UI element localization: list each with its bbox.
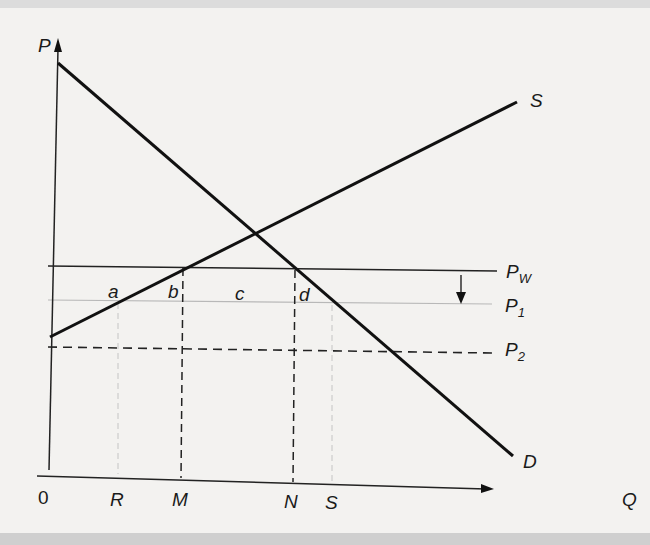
m-guide-line (181, 268, 183, 478)
area-d-label: d (299, 285, 310, 304)
p2-label-sub: 2 (518, 349, 525, 364)
area-c-label: c (235, 284, 245, 303)
pw-line (48, 266, 497, 271)
p2-label: P2 (505, 340, 525, 363)
page-edge-bottom (0, 533, 650, 545)
down-arrow-icon (456, 292, 466, 304)
tick-m-label: M (172, 490, 188, 509)
x-axis-arrow-icon (481, 484, 494, 493)
x-axis (37, 476, 486, 489)
pw-label-main: P (506, 261, 519, 282)
p2-label-main: P (505, 339, 518, 360)
pw-label-sub: W (519, 271, 531, 286)
y-axis-arrow-icon (54, 38, 62, 52)
p2-line (48, 347, 492, 353)
supply-label: S (530, 91, 543, 110)
demand-curve (58, 63, 513, 456)
area-a-label: a (108, 282, 119, 301)
x-axis-label: Q (622, 490, 637, 509)
y-axis (49, 48, 58, 470)
demand-label: D (523, 452, 537, 471)
tick-s-label: S (325, 493, 338, 512)
origin-label: 0 (38, 488, 49, 507)
tick-n-label: N (284, 492, 298, 511)
tick-r-label: R (110, 490, 124, 509)
diagram-canvas: P Q 0 S D PW P1 P2 a b c d R M N S (0, 0, 650, 545)
pw-label: PW (506, 262, 531, 285)
area-b-label: b (168, 282, 179, 301)
p1-label-main: P (505, 295, 518, 316)
supply-demand-graph (0, 0, 650, 545)
p1-label-sub: 1 (518, 305, 525, 320)
p1-label: P1 (505, 296, 525, 319)
y-axis-label: P (38, 36, 51, 55)
